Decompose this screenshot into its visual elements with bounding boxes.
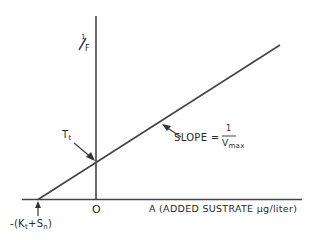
- origin-label: O: [92, 204, 101, 215]
- slope-label: SLOPE =: [174, 133, 219, 143]
- slope-num: 1: [226, 125, 231, 133]
- intercept-label: Tt: [62, 130, 71, 142]
- xi-mid: +S: [28, 218, 43, 229]
- y-axis-label-den: F: [85, 45, 90, 53]
- slope-den: Vmax: [222, 139, 245, 150]
- x-intercept-label: -(Kt+Sn): [10, 219, 52, 231]
- xi-prefix: -(K: [10, 218, 25, 229]
- slope-den-sub: max: [228, 142, 244, 150]
- x-axis-label: A (ADDED SUSTRATE µg/liter): [149, 204, 297, 214]
- x-intercept-arrow-icon: [35, 201, 41, 208]
- intercept-sub: t: [68, 134, 71, 142]
- y-axis-label-num: 1: [81, 34, 86, 41]
- xi-suffix: ): [48, 218, 52, 229]
- data-line: [38, 45, 280, 200]
- slope-text: SLOPE =: [174, 132, 219, 143]
